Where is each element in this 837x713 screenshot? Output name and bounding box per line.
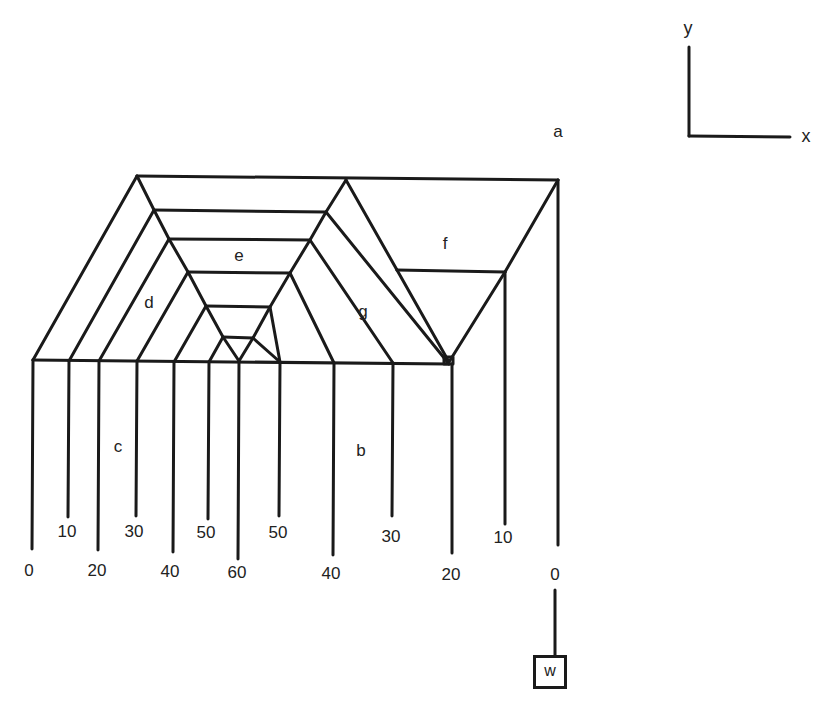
string-label: 30 [125,523,144,540]
string-label: 50 [269,524,288,541]
string-label: 0 [550,566,559,583]
string-label: 20 [442,566,461,583]
axes-indicator [689,47,790,137]
region-label-f: f [443,235,448,252]
vertical-strings [32,180,558,656]
string-label: 60 [228,564,247,581]
y-axis-label: y [684,19,693,37]
region-label-g: g [358,303,367,320]
right-section [346,180,558,364]
string-label: 0 [24,562,33,579]
string-label: 50 [197,524,216,541]
string-label: 20 [88,562,107,579]
weight-box: w [533,655,567,689]
string-label: 10 [58,523,77,540]
region-label-b: b [356,442,365,459]
x-axis-label: x [802,127,811,145]
region-label-e: e [234,247,243,264]
string-network-diagram [0,0,837,713]
string-label: 40 [161,563,180,580]
region-label-c: c [114,438,123,455]
region-label-d: d [144,294,153,311]
funnel-lines [69,176,449,364]
region-label-a: a [553,123,562,140]
string-label: 10 [494,529,513,546]
string-label: 30 [382,528,401,545]
string-label: 40 [322,565,341,582]
weight-label: w [544,662,556,680]
